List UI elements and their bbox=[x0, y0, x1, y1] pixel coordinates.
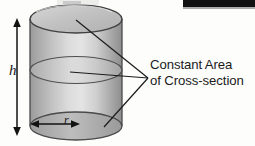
radius-label: r bbox=[64, 113, 69, 128]
annotation-line-1: Constant Area bbox=[150, 57, 255, 73]
cross-section-ellipse bbox=[30, 57, 122, 84]
scan-artifact-bar bbox=[183, 0, 255, 7]
cylinder-bottom-ellipse bbox=[30, 112, 122, 140]
cropped-text-ghost-core bbox=[63, 1, 81, 4]
height-label: h bbox=[9, 62, 17, 79]
cylinder-top-ellipse bbox=[30, 5, 122, 33]
annotation-line-2: of Cross-section bbox=[150, 73, 255, 89]
scan-artifact-bar-fade bbox=[183, 7, 255, 9]
annotation-text: Constant Area of Cross-section bbox=[150, 57, 255, 88]
figure-canvas: h r Constant Area of Cross-section bbox=[0, 0, 255, 146]
